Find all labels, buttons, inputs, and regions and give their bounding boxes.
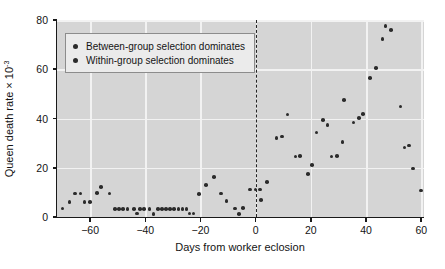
data-point: [330, 155, 334, 159]
data-point: [335, 154, 339, 158]
data-point: [117, 207, 121, 211]
data-point: [248, 188, 252, 192]
data-point: [73, 192, 77, 196]
y-axis-title-text: Queen death rate × 10: [3, 67, 15, 177]
y-axis-tick-label: 40: [36, 113, 48, 125]
data-point: [152, 212, 156, 216]
data-point: [126, 207, 130, 211]
y-axis-title: Queen death rate × 10-3: [3, 61, 16, 178]
x-axis-tick-label: −60: [81, 224, 99, 236]
x-axis-tick: [145, 218, 147, 222]
data-point: [135, 212, 139, 216]
data-point: [381, 37, 385, 41]
data-point: [88, 200, 92, 204]
y-axis-tick: [53, 118, 57, 120]
x-axis-tick-label: 60: [415, 224, 427, 236]
data-point: [280, 135, 284, 139]
data-point: [160, 207, 164, 211]
data-point: [306, 172, 310, 176]
data-point: [172, 207, 176, 211]
data-point: [403, 146, 407, 150]
data-point: [298, 154, 302, 158]
data-point: [132, 207, 136, 211]
data-point: [68, 200, 72, 204]
y-axis-tick: [53, 167, 57, 169]
data-point: [177, 207, 181, 211]
y-axis-title-exponent: -3: [3, 61, 10, 67]
data-point: [361, 112, 365, 116]
legend-label: Within-group selection dominates: [86, 55, 234, 66]
y-axis-tick-label: 20: [36, 162, 48, 174]
legend-entry-between-group: Between-group selection dominates: [73, 39, 245, 53]
data-point: [148, 207, 152, 211]
x-axis-tick-label: 20: [305, 224, 317, 236]
data-point: [407, 144, 411, 148]
data-point: [204, 183, 208, 187]
x-axis-tick-label: −40: [136, 224, 154, 236]
y-axis-tick: [53, 19, 57, 21]
y-axis-tick-label: 80: [36, 14, 48, 26]
data-point: [310, 163, 314, 167]
y-axis-tick: [53, 216, 57, 218]
legend-label: Between-group selection dominates: [86, 41, 245, 52]
y-axis-title-wrapper: Queen death rate × 10-3: [13, 0, 14, 269]
x-axis-tick-label: 40: [360, 224, 372, 236]
data-point: [411, 167, 415, 171]
data-point: [142, 207, 146, 211]
gridline-horizontal: [57, 20, 424, 22]
data-point: [79, 192, 83, 196]
data-point: [164, 207, 168, 211]
scatter-plot-figure: −60−40−200204060020406080 Queen death ra…: [0, 0, 445, 269]
data-point: [237, 212, 241, 216]
x-axis-tick: [89, 218, 91, 222]
data-point: [61, 207, 65, 211]
x-axis-tick: [310, 218, 312, 222]
x-axis-tick: [200, 218, 202, 222]
data-point: [399, 105, 403, 109]
data-point: [265, 180, 269, 184]
data-point: [241, 206, 245, 210]
data-point: [341, 140, 345, 144]
data-point: [294, 155, 298, 159]
gridline-horizontal: [57, 119, 424, 121]
x-axis-tick: [420, 218, 422, 222]
data-point: [219, 192, 223, 196]
data-point: [326, 123, 330, 127]
gridline-horizontal: [57, 168, 424, 170]
data-point: [156, 207, 160, 211]
x-axis-tick: [365, 218, 367, 222]
data-point: [99, 185, 103, 189]
data-point: [368, 76, 372, 80]
y-axis-tick-label: 60: [36, 63, 48, 75]
x-axis-tick: [255, 218, 257, 222]
data-point: [352, 121, 356, 125]
data-point: [192, 212, 196, 216]
data-point: [275, 136, 279, 140]
data-point: [258, 188, 262, 192]
data-point: [181, 207, 185, 211]
data-point: [389, 28, 393, 32]
legend-marker-icon: [73, 44, 78, 49]
data-point: [168, 207, 172, 211]
y-axis-tick-label: 0: [42, 211, 48, 223]
data-point: [113, 207, 117, 211]
data-point: [321, 118, 325, 122]
data-point: [188, 212, 192, 216]
data-point: [259, 198, 263, 202]
x-axis-tick-label: 0: [253, 224, 259, 236]
data-point: [108, 192, 112, 196]
data-point: [225, 199, 229, 203]
data-point: [138, 207, 142, 211]
x-axis-tick-label: −20: [192, 224, 210, 236]
data-point: [233, 207, 237, 211]
legend-entry-within-group: Within-group selection dominates: [73, 53, 245, 67]
legend-marker-icon: [73, 58, 78, 63]
data-point: [374, 66, 378, 70]
data-point: [83, 200, 87, 204]
data-point: [286, 113, 290, 117]
data-point: [95, 191, 99, 195]
data-point: [121, 207, 125, 211]
data-point: [212, 175, 216, 179]
data-point: [342, 98, 346, 102]
data-point: [357, 116, 361, 120]
